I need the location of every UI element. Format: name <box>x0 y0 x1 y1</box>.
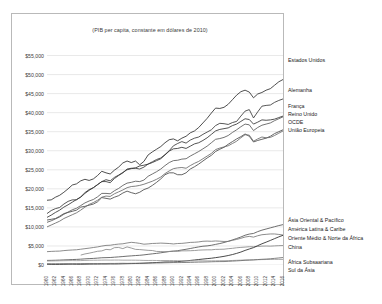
x-axis-tick-label: 2002 <box>222 276 227 286</box>
x-axis-tick-label: 1978 <box>121 276 126 286</box>
y-axis-tick-label: $5,000 <box>10 243 44 249</box>
x-axis-tick-label: 1984 <box>146 276 151 286</box>
plot-area <box>47 46 283 265</box>
x-axis-tick-label: 2004 <box>230 276 235 286</box>
x-axis-tick-label: 1962 <box>53 276 58 286</box>
y-axis-tick-label: $50,000 <box>10 72 44 78</box>
series-label: Estados Unidos <box>288 57 325 63</box>
x-axis-tick-label: 1966 <box>70 276 75 286</box>
series-label: Ásia Oriental & Pacífico <box>288 217 344 223</box>
x-axis-tick-label: 1988 <box>163 276 168 286</box>
x-axis-tick-label: 2010 <box>255 276 260 286</box>
series-label: Sul da Ásia <box>288 267 315 273</box>
x-axis-tick-label: 1992 <box>180 276 185 286</box>
x-axis-tick-label: 2014 <box>272 276 277 286</box>
x-axis-tick-label: 1960 <box>45 276 50 286</box>
y-axis-tick-label: $45,000 <box>10 91 44 97</box>
series-line <box>47 116 283 217</box>
x-axis-tick-label: 1998 <box>205 276 210 286</box>
x-axis-tick-label: 1964 <box>62 276 67 286</box>
x-axis-tick-label: 1986 <box>154 276 159 286</box>
series-lines-svg <box>47 46 283 265</box>
chart-title: (PIB per capita, constante em dólares de… <box>40 27 260 33</box>
series-line <box>47 234 283 252</box>
y-axis-tick-label: $25,000 <box>10 167 44 173</box>
x-axis-tick-label: 2016 <box>281 276 286 286</box>
series-label: Oriente Médio & Norte da África <box>288 235 363 241</box>
x-axis-tick-label: 1996 <box>196 276 201 286</box>
x-axis-tick-label: 1974 <box>104 276 109 286</box>
x-axis-tick-label: 1976 <box>112 276 117 286</box>
y-axis-tick-label: $30,000 <box>10 148 44 154</box>
chart-container: (PIB per capita, constante em dólares de… <box>0 0 382 304</box>
series-line <box>47 130 283 220</box>
y-axis-tick-label: $55,000 <box>10 53 44 59</box>
x-axis-tick-label: 1972 <box>95 276 100 286</box>
x-axis-tick-label: 1970 <box>87 276 92 286</box>
x-axis-tick-label: 1982 <box>137 276 142 286</box>
x-axis-tick-label: 1980 <box>129 276 134 286</box>
series-legend-labels: Estados UnidosAlemanhaFrançaReino UnidoO… <box>288 0 382 304</box>
x-axis-tick-label: 1994 <box>188 276 193 286</box>
y-axis-tick-label: $40,000 <box>10 110 44 116</box>
series-label: União Europeia <box>288 127 325 133</box>
x-axis-tick-label: 2006 <box>239 276 244 286</box>
series-line <box>47 99 283 214</box>
series-label: China <box>288 244 302 250</box>
y-axis-tick-label: $35,000 <box>10 129 44 135</box>
x-axis-tick-label: 1990 <box>171 276 176 286</box>
series-label: Alemanha <box>288 87 312 93</box>
series-label: OCDE <box>288 119 303 125</box>
y-axis-tick-label: $0 <box>10 262 44 268</box>
y-axis-tick-label: $15,000 <box>10 205 44 211</box>
x-axis-tick-label: 2000 <box>213 276 218 286</box>
x-axis-tick-label: 2008 <box>247 276 252 286</box>
y-axis-labels: $55,000$50,000$45,000$40,000$35,000$30,0… <box>8 46 44 265</box>
series-label: França <box>288 103 305 109</box>
x-axis-labels: 1960196219641966196819701972197419761978… <box>47 266 283 286</box>
series-label: Reino Unido <box>288 111 317 117</box>
series-label: África Subsaariana <box>288 259 333 265</box>
series-line <box>47 131 283 227</box>
series-line <box>47 80 283 201</box>
y-axis-tick-label: $10,000 <box>10 224 44 230</box>
series-label: América Latina & Caribe <box>288 226 345 232</box>
x-axis-tick-label: 1968 <box>78 276 83 286</box>
y-axis-tick-label: $20,000 <box>10 186 44 192</box>
x-axis-tick-label: 2012 <box>264 276 269 286</box>
